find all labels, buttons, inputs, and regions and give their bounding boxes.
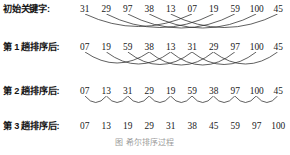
arc-svg-gap-1 bbox=[0, 96, 289, 121]
value-cell: 07 bbox=[74, 121, 96, 132]
value-cell: 29 bbox=[139, 86, 161, 97]
value-cell: 07 bbox=[74, 42, 96, 53]
value-cell: 59 bbox=[225, 121, 247, 132]
value-cell: 100 bbox=[246, 4, 268, 15]
value-cell: 31 bbox=[182, 42, 204, 53]
value-cell: 38 bbox=[203, 86, 225, 97]
arc-group-gap-5 bbox=[0, 14, 289, 43]
value-cell: 31 bbox=[160, 121, 182, 132]
value-list-pass-2: 07 13 31 29 19 59 38 97 100 45 bbox=[74, 85, 289, 98]
value-cell: 38 bbox=[139, 4, 161, 15]
arc-svg-gap-5 bbox=[0, 14, 289, 43]
value-cell: 31 bbox=[117, 86, 139, 97]
arc-group-gap-3 bbox=[0, 52, 289, 86]
value-cell: 45 bbox=[268, 42, 290, 53]
value-cell: 97 bbox=[225, 86, 247, 97]
sequence-row-pass-1: 第 1 趟排序后: 07 19 59 38 13 31 29 97 100 45 bbox=[0, 41, 289, 54]
value-cell: 19 bbox=[203, 4, 225, 15]
value-cell: 45 bbox=[203, 121, 225, 132]
sequence-row-pass-2: 第 2 趟排序后: 07 13 31 29 19 59 38 97 100 45 bbox=[0, 85, 289, 98]
row-label-pass-2: 第 2 趟排序后: bbox=[0, 86, 74, 97]
arc-svg-gap-3 bbox=[0, 52, 289, 86]
arc-group-gap-1 bbox=[0, 96, 289, 121]
value-cell: 100 bbox=[268, 121, 290, 132]
value-cell: 45 bbox=[268, 4, 290, 15]
value-list-initial: 31 29 97 38 13 07 19 59 100 45 bbox=[74, 3, 289, 16]
value-cell: 13 bbox=[96, 121, 118, 132]
value-cell: 100 bbox=[246, 42, 268, 53]
value-cell: 13 bbox=[96, 86, 118, 97]
row-label-initial: 初始关键字: bbox=[0, 4, 74, 15]
value-cell: 59 bbox=[225, 4, 247, 15]
value-cell: 07 bbox=[182, 4, 204, 15]
value-cell: 07 bbox=[74, 86, 96, 97]
value-list-pass-1: 07 19 59 38 13 31 29 97 100 45 bbox=[74, 41, 289, 54]
value-cell: 13 bbox=[160, 4, 182, 15]
value-cell: 19 bbox=[160, 86, 182, 97]
value-cell: 19 bbox=[96, 42, 118, 53]
sequence-row-pass-3: 第 3 趟排序后: 07 13 19 29 31 38 45 59 97 100 bbox=[0, 120, 289, 133]
value-cell: 97 bbox=[225, 42, 247, 53]
sequence-row-initial: 初始关键字: 31 29 97 38 13 07 19 59 100 45 bbox=[0, 3, 289, 16]
row-label-pass-3: 第 3 趟排序后: bbox=[0, 121, 74, 132]
value-cell: 38 bbox=[182, 121, 204, 132]
value-cell: 29 bbox=[96, 4, 118, 15]
value-cell: 59 bbox=[182, 86, 204, 97]
figure-caption: 图 希尔排序过程 bbox=[0, 138, 289, 148]
value-cell: 59 bbox=[117, 42, 139, 53]
value-cell: 29 bbox=[203, 42, 225, 53]
value-cell: 29 bbox=[139, 121, 161, 132]
value-cell: 38 bbox=[139, 42, 161, 53]
value-cell: 97 bbox=[117, 4, 139, 15]
value-cell: 97 bbox=[246, 121, 268, 132]
shell-sort-figure: 初始关键字: 31 29 97 38 13 07 19 59 100 45 第 … bbox=[0, 0, 289, 155]
value-cell: 31 bbox=[74, 4, 96, 15]
value-cell: 19 bbox=[117, 121, 139, 132]
value-cell: 100 bbox=[246, 86, 268, 97]
value-cell: 13 bbox=[160, 42, 182, 53]
row-label-pass-1: 第 1 趟排序后: bbox=[0, 42, 74, 53]
value-list-pass-3: 07 13 19 29 31 38 45 59 97 100 bbox=[74, 120, 289, 133]
value-cell: 45 bbox=[268, 86, 290, 97]
